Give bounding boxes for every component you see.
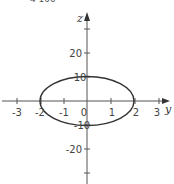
y-tick-label: 3: [154, 107, 160, 118]
z-tick-label: -10: [74, 120, 90, 131]
y-tick-label: -1: [59, 107, 69, 118]
y-tick-label: -2: [35, 107, 45, 118]
ellipse-chart: -3 -2 -1 0 1 2 3 20 10 -10 -20 z y: [0, 0, 174, 184]
z-axis-arrow-icon: [84, 12, 90, 21]
z-axis-label: z: [76, 12, 83, 25]
z-tick-label: 20: [69, 48, 82, 59]
y-tick-label: -3: [12, 107, 22, 118]
y-axis-label: y: [164, 103, 172, 116]
z-tick-label: 10: [74, 72, 87, 83]
z-tick-label: -20: [66, 144, 82, 155]
y-tick-label: 2: [133, 107, 139, 118]
y-tick-label: 1: [109, 107, 115, 118]
y-tick-label: 0: [81, 107, 87, 118]
